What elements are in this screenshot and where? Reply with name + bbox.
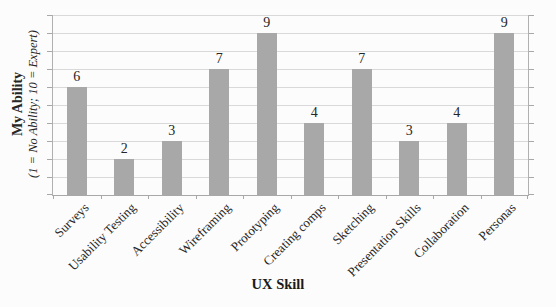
y-axis-tick-right xyxy=(529,33,534,34)
bar-collaboration xyxy=(447,123,467,195)
gridline xyxy=(53,87,528,88)
bar-value-label: 7 xyxy=(358,51,365,67)
gridline xyxy=(53,15,528,16)
y-axis-tick-right xyxy=(529,105,534,106)
x-axis-tick xyxy=(386,195,387,199)
x-axis-title: UX Skill xyxy=(0,276,556,293)
x-axis-tick xyxy=(53,195,54,199)
y-axis-tick-right xyxy=(529,141,534,142)
y-axis-title: My Ability (1 = No Ability; 10 = Expert) xyxy=(10,4,46,204)
x-category-label: Surveys xyxy=(51,200,92,241)
y-axis-tick-left xyxy=(47,123,52,124)
y-axis-tick-left xyxy=(47,194,52,195)
x-axis-tick xyxy=(243,195,244,199)
y-axis-tick-left xyxy=(47,69,52,70)
y-axis-tick-right xyxy=(529,159,534,160)
gridline xyxy=(53,51,528,52)
y-axis-tick-right xyxy=(529,87,534,88)
x-axis-tick xyxy=(527,195,528,199)
bar-chart-figure: My Ability (1 = No Ability; 10 = Expert)… xyxy=(0,0,556,307)
y-axis-tick-left xyxy=(47,105,52,106)
bar-value-label: 7 xyxy=(216,51,223,67)
y-axis-tick-left xyxy=(47,177,52,178)
y-axis-tick-left xyxy=(47,141,52,142)
y-axis-title-scale-note: (1 = No Ability; 10 = Expert) xyxy=(26,4,40,204)
bar-accessibility xyxy=(162,141,182,195)
y-axis-tick-left xyxy=(47,51,52,52)
bar-value-label: 2 xyxy=(121,141,128,157)
bar-surveys xyxy=(67,87,87,195)
bar-sketching xyxy=(352,69,372,195)
bar-personas xyxy=(494,33,514,195)
bar-value-label: 3 xyxy=(168,123,175,139)
y-axis-tick-right xyxy=(529,69,534,70)
y-axis-tick-right xyxy=(529,15,534,16)
x-axis-tick xyxy=(291,195,292,199)
bar-wireframing xyxy=(209,69,229,195)
bar-value-label: 4 xyxy=(311,105,318,121)
y-axis-tick-left xyxy=(47,87,52,88)
x-axis-tick xyxy=(433,195,434,199)
y-axis-tick-right xyxy=(529,123,534,124)
x-axis-tick xyxy=(338,195,339,199)
bar-value-label: 9 xyxy=(501,15,508,31)
bar-presentation-skills xyxy=(399,141,419,195)
x-axis-tick xyxy=(481,195,482,199)
bar-value-label: 3 xyxy=(406,123,413,139)
gridline xyxy=(53,69,528,70)
bar-usability-testing xyxy=(114,159,134,195)
x-category-label: Sketching xyxy=(329,200,377,248)
bar-creating-comps xyxy=(304,123,324,195)
x-axis-tick xyxy=(101,195,102,199)
bar-prototyping xyxy=(257,33,277,195)
y-axis-tick-right xyxy=(529,194,534,195)
bar-value-label: 4 xyxy=(453,105,460,121)
x-axis-tick xyxy=(196,195,197,199)
y-axis-tick-left xyxy=(47,33,52,34)
bar-value-label: 6 xyxy=(73,69,80,85)
plot-area: 6237947349 xyxy=(52,15,529,196)
y-axis-tick-right xyxy=(529,51,534,52)
x-category-label: Personas xyxy=(476,200,520,244)
x-axis-tick xyxy=(148,195,149,199)
y-axis-title-main: My Ability xyxy=(10,4,26,204)
y-axis-tick-right xyxy=(529,177,534,178)
y-axis-tick-left xyxy=(47,15,52,16)
y-axis-tick-left xyxy=(47,159,52,160)
bar-value-label: 9 xyxy=(263,15,270,31)
gridline xyxy=(53,33,528,34)
